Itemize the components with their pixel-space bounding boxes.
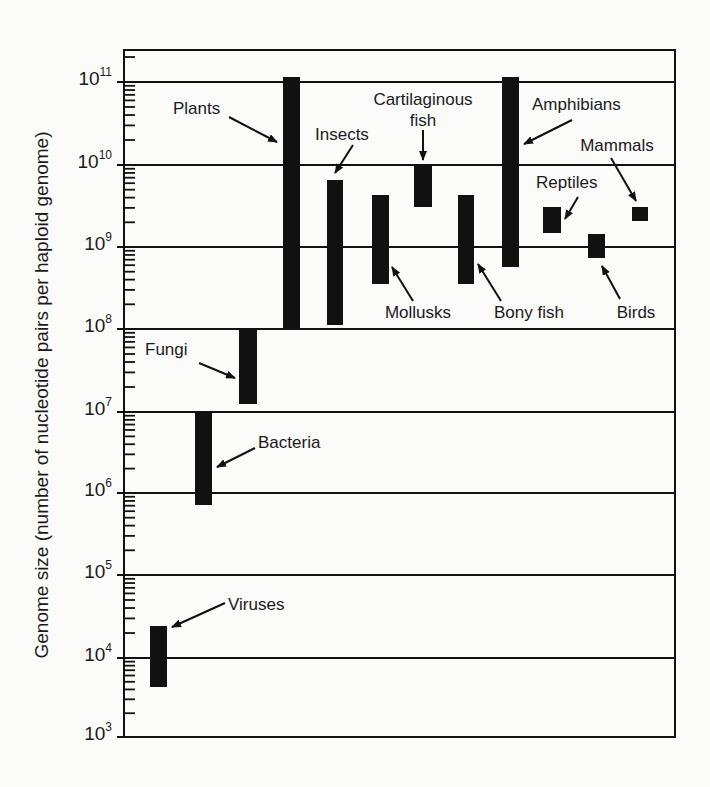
label-fungi: Fungi bbox=[145, 340, 188, 359]
label-plants: Plants bbox=[173, 99, 220, 118]
arrow-icon bbox=[335, 145, 353, 173]
y-axis-ticks bbox=[124, 57, 135, 713]
label-mammals: Mammals bbox=[580, 136, 654, 155]
bar-viruses bbox=[150, 626, 167, 687]
label-viruses: Viruses bbox=[228, 595, 284, 614]
y-tick-label: 105 bbox=[84, 558, 112, 582]
y-tick-label: 104 bbox=[84, 641, 112, 665]
label-insects: Insects bbox=[315, 125, 369, 144]
arrow-icon bbox=[172, 603, 225, 627]
bar-birds bbox=[588, 234, 605, 258]
arrow-icon bbox=[565, 197, 578, 219]
bar-amphibians bbox=[502, 77, 519, 267]
y-axis-label: Genome size (number of nucleotide pairs … bbox=[31, 131, 52, 658]
arrow-icon bbox=[392, 267, 413, 301]
y-tick-label: 1011 bbox=[78, 65, 112, 89]
arrow-icon bbox=[199, 363, 235, 378]
y-tick-label: 1010 bbox=[78, 148, 113, 172]
bar-mollusks bbox=[372, 195, 389, 284]
y-tick-label: 109 bbox=[84, 230, 112, 254]
arrow-icon bbox=[602, 266, 620, 299]
genome-size-chart: 10310410510610710810910101011 VirusesBac… bbox=[0, 0, 710, 787]
y-tick-label: 106 bbox=[84, 476, 112, 500]
arrow-icon bbox=[478, 264, 501, 301]
label-cartilaginous-fish: fish bbox=[410, 111, 436, 130]
bar-bacteria bbox=[195, 412, 212, 505]
y-tick-label: 103 bbox=[84, 720, 112, 744]
category-labels: VirusesBacteriaFungiPlantsInsectsMollusk… bbox=[145, 90, 655, 614]
bar-cartilaginous-fish bbox=[414, 166, 432, 207]
range-bars bbox=[150, 77, 648, 687]
label-bacteria: Bacteria bbox=[258, 433, 321, 452]
bar-insects bbox=[327, 180, 343, 325]
label-mollusks: Mollusks bbox=[385, 303, 451, 322]
bar-mammals bbox=[632, 207, 648, 221]
label-reptiles: Reptiles bbox=[536, 173, 597, 192]
bar-reptiles bbox=[543, 207, 561, 233]
y-tick-label: 107 bbox=[84, 395, 112, 419]
label-amphibians: Amphibians bbox=[532, 95, 621, 114]
y-axis-tick-labels: 10310410510610710810910101011 bbox=[78, 65, 113, 744]
label-birds: Birds bbox=[617, 303, 656, 322]
label-bony-fish: Bony fish bbox=[494, 303, 564, 322]
y-tick-label: 108 bbox=[84, 312, 112, 336]
arrow-icon bbox=[229, 117, 277, 142]
bar-plants bbox=[283, 77, 300, 328]
bar-fungi bbox=[239, 329, 257, 404]
label-cartilaginous-fish: Cartilaginous bbox=[373, 90, 472, 109]
arrow-icon bbox=[524, 120, 572, 144]
bar-bony-fish bbox=[458, 195, 474, 284]
arrow-icon bbox=[217, 448, 255, 467]
